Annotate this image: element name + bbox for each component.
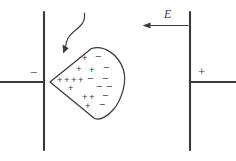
left-terminal-sign: − (30, 66, 37, 79)
field-label-E: E (164, 8, 171, 20)
charge-positive: + (85, 101, 91, 111)
leader-curve (66, 13, 85, 48)
charge-positive: + (57, 75, 63, 85)
charge-positive: + (68, 83, 74, 93)
charge-negative: − (99, 99, 105, 110)
field-arrow-head-icon (143, 23, 151, 29)
figure-vector-layer (0, 0, 236, 161)
charge-negative: − (95, 51, 101, 62)
charge-positive: + (82, 53, 88, 63)
charge-positive: + (78, 75, 84, 85)
charge-positive: + (76, 64, 82, 74)
figure-canvas: − + E +−++−++++−−+−−++−+− (0, 0, 236, 161)
charge-negative: − (103, 62, 109, 73)
charge-negative: − (87, 73, 93, 84)
right-terminal-sign: + (198, 65, 205, 78)
